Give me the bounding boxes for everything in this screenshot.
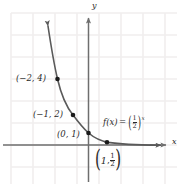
point-label-neg1-2: (−1, 2) [33,110,63,119]
point-1-half [105,140,110,145]
point-label-0-1: (0, 1) [57,130,80,139]
equals-sign: = [118,118,128,127]
exponent: x [142,116,145,122]
point-fraction-denominator: 2 [110,160,114,168]
x-axis-label: x [172,138,177,146]
point-neg2-4 [55,77,60,82]
point-label-1-half: ( 1 , 1 2 ) [95,152,121,168]
point-neg1-2 [71,113,76,118]
open-paren-icon: ( [128,114,132,131]
exponential-function-figure: (−2, 4) (−1, 2) (0, 1) f(x) = ( 1 2 ) x … [0,0,183,187]
fraction-denominator: 2 [133,122,137,130]
function-equation-label: f(x) = ( 1 2 ) x [103,112,145,130]
grid-lines [11,13,177,184]
point-fraction-numerator: 1 [110,153,114,160]
graph-canvas [0,0,183,187]
y-axis-label: y [92,2,97,10]
function-name: f(x) [103,118,118,127]
point-label-neg2-4: (−2, 4) [16,74,46,83]
point-0-1 [86,131,91,136]
big-open-paren-icon: ( [95,149,101,172]
big-close-paren-icon: ) [115,149,121,172]
fraction-numerator: 1 [133,115,137,122]
